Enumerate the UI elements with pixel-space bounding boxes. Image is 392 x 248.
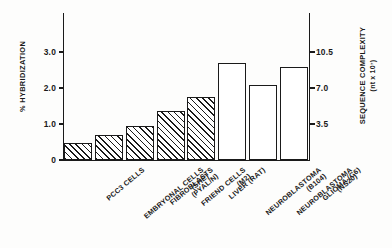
bar-1 xyxy=(95,135,123,160)
y-axis-right-tick-label: 3.5 xyxy=(316,119,350,129)
y-axis-right-tick-mark xyxy=(310,51,315,52)
y-axis-left-tick-label: 2.0 xyxy=(24,83,56,93)
bar-5 xyxy=(218,63,246,160)
bar-chart-figure: % HYBRIDIZATION SEQUENCE COMPLEXITY (nt … xyxy=(0,0,392,248)
bar-4 xyxy=(187,97,215,160)
bar-2 xyxy=(126,126,154,160)
y-axis-right-tick-label: 7.0 xyxy=(316,83,350,93)
y-axis-right-tick-label: 10.5 xyxy=(316,47,350,57)
bar-6 xyxy=(249,85,277,160)
y-axis-left-tick-label: 0 xyxy=(24,155,56,165)
y-axis-right-title-line2: (nt x 10⁷) xyxy=(367,6,377,146)
y-axis-left-tick-label: 3.0 xyxy=(24,47,56,57)
y-axis-left-line xyxy=(63,13,64,161)
bar-3 xyxy=(157,111,185,160)
x-axis-baseline xyxy=(63,160,310,161)
y-axis-left-tick-mark xyxy=(59,159,64,160)
y-axis-right-title-line1: SEQUENCE COMPLEXITY xyxy=(358,27,367,124)
y-axis-right-tick-mark xyxy=(310,123,315,124)
y-axis-right-title: SEQUENCE COMPLEXITY (nt x 10⁷) xyxy=(358,6,377,146)
y-axis-left-tick-mark xyxy=(59,123,64,124)
bar-0 xyxy=(64,143,92,160)
y-axis-left-tick-mark xyxy=(59,87,64,88)
y-axis-left-tick-label: 1.0 xyxy=(24,119,56,129)
x-axis-label-line1: PCC3 CELLS xyxy=(105,165,147,202)
y-axis-right-tick-mark xyxy=(310,87,315,88)
bar-7 xyxy=(280,67,308,160)
y-axis-left-tick-mark xyxy=(59,51,64,52)
x-axis-label-0: PCC3 CELLS xyxy=(105,166,147,203)
